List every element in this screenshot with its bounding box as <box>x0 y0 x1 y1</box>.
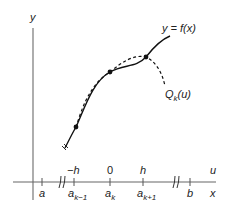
x-axis-label: x <box>209 187 216 199</box>
tick-label-h: h <box>140 164 146 176</box>
tick-label-minus-h: −h <box>67 164 80 176</box>
y-axis-label: y <box>29 11 37 23</box>
tick-label-a-k-plus-1: ak+1 <box>137 187 156 202</box>
node-point-a-k-plus-1 <box>144 55 149 60</box>
tick-label-a-k-minus-1: ak−1 <box>68 187 87 202</box>
tick-label-zero: 0 <box>107 164 113 176</box>
label-f: y = f(x) <box>161 22 196 34</box>
node-point-a-k <box>108 70 113 75</box>
curve-f <box>65 36 170 148</box>
label-q: Qk(u) <box>165 88 191 103</box>
tick-label-b: b <box>187 187 193 199</box>
tick-label-a: a <box>39 187 45 199</box>
tick-label-a-k: ak <box>105 187 116 202</box>
u-axis-label: u <box>210 164 216 176</box>
interpolation-diagram: y −h 0 h u a ak−1 ak ak+1 b x y = f(x) Q… <box>0 0 227 210</box>
node-point-a-k-minus-1 <box>74 125 79 130</box>
curve-q <box>76 56 165 127</box>
